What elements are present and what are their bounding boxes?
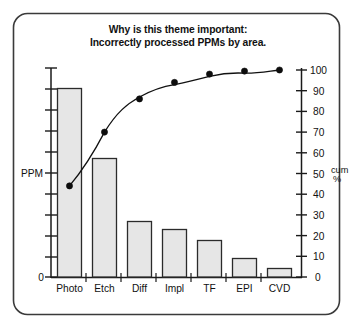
cumulative-point-epi (241, 68, 247, 74)
category-label-cvd: CVD (269, 283, 291, 294)
pareto-chart-figure: Why is this theme important: Incorrectly… (0, 0, 353, 328)
bar-epi (233, 259, 257, 278)
right-axis-tick-label-70: 70 (313, 127, 325, 138)
right-axis-tick-label-80: 80 (313, 106, 325, 117)
category-label-impl: Impl (165, 283, 184, 294)
right-axis-tick-label-10: 10 (313, 251, 325, 262)
chart-title-line-1: Why is this theme important: (109, 24, 248, 35)
right-axis-unit-percent: % (333, 174, 341, 184)
cumulative-point-diff (136, 96, 142, 102)
category-label-epi: EPI (236, 283, 252, 294)
chart-canvas: Why is this theme important: Incorrectly… (0, 0, 353, 328)
chart-title-line-2: Incorrectly processed PPMs by area. (90, 37, 266, 48)
category-label-tf: TF (203, 283, 215, 294)
right-axis-tick-label-20: 20 (313, 231, 325, 242)
right-axis-tick-label-30: 30 (313, 210, 325, 221)
category-label-etch: Etch (94, 283, 114, 294)
cumulative-point-etch (101, 129, 107, 135)
right-axis-tick-label-100: 100 (310, 65, 327, 76)
bar-cvd (268, 269, 292, 278)
cumulative-point-cvd (276, 67, 282, 73)
category-label-photo: Photo (56, 283, 83, 294)
cumulative-point-impl (171, 79, 177, 85)
bar-impl (163, 230, 187, 278)
left-axis-title: PPM (21, 168, 43, 179)
cumulative-point-photo (66, 183, 72, 189)
right-axis-tick-label-90: 90 (313, 86, 325, 97)
bar-diff (128, 222, 152, 278)
bar-etch (93, 159, 117, 278)
cumulative-point-tf (206, 71, 212, 77)
category-label-diff: Diff (132, 283, 147, 294)
right-axis-tick-label-60: 60 (313, 148, 325, 159)
bar-tf (198, 241, 222, 278)
right-axis-tick-label-40: 40 (313, 189, 325, 200)
left-axis-zero-label: 0 (38, 272, 44, 283)
right-axis-tick-label-50: 50 (313, 169, 325, 180)
right-axis-tick-label-0: 0 (315, 272, 321, 283)
